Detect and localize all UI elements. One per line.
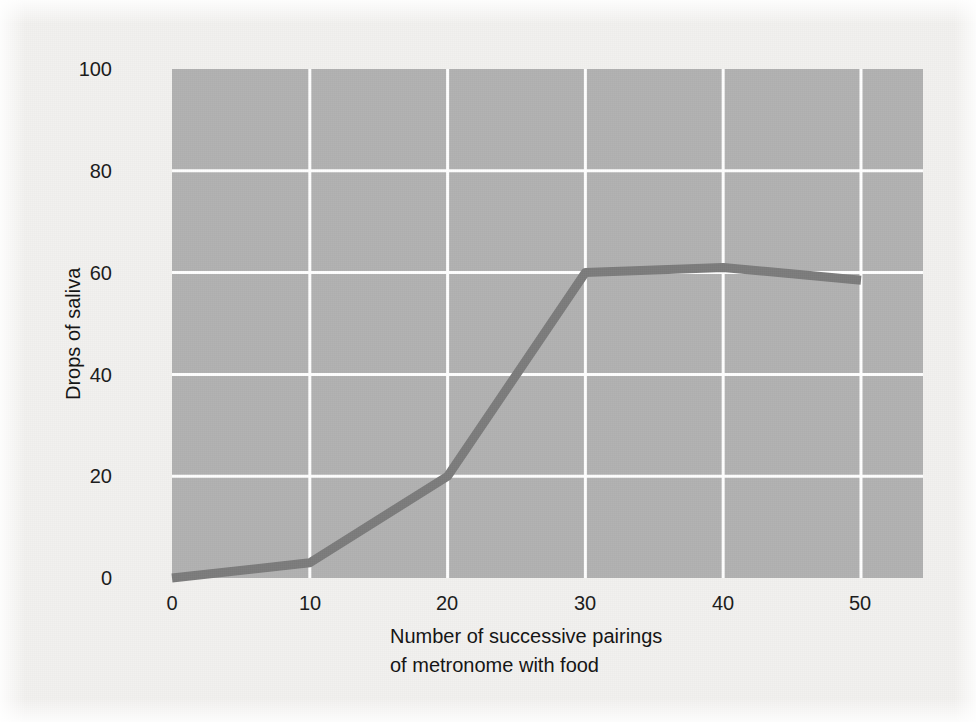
x-axis-label: Number of successive pairings of metrono… [390,622,662,680]
x-tick-label-20: 20 [417,592,477,615]
chart-figure: 100 80 60 40 20 0 0 10 20 30 40 50 Drops… [0,0,976,722]
x-tick-label-10: 10 [280,592,340,615]
y-tick-label-0: 0 [52,567,112,590]
x-tick-label-30: 30 [555,592,615,615]
y-tick-label-20: 20 [52,465,112,488]
y-tick-label-100: 100 [52,58,112,81]
x-axis-label-line-2: of metronome with food [390,651,662,680]
x-tick-label-50: 50 [830,592,890,615]
x-tick-label-40: 40 [693,592,753,615]
y-axis-label: Drops of saliva [62,268,85,400]
x-tick-label-0: 0 [142,592,202,615]
x-axis-label-line-1: Number of successive pairings [390,622,662,651]
y-tick-label-80: 80 [52,160,112,183]
